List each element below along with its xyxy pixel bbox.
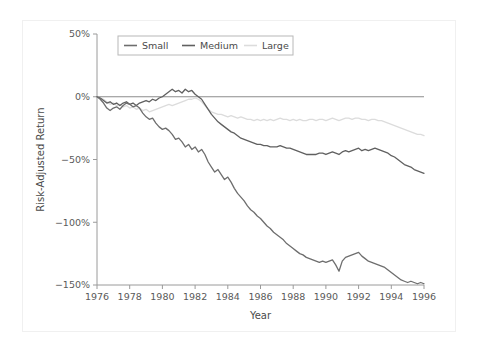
y-tick-label: 50% <box>69 28 90 39</box>
y-axis-title: Risk-Adjusted Return <box>35 107 46 211</box>
x-tick-label: 1992 <box>347 291 371 302</box>
x-tick-label: 1984 <box>216 291 240 302</box>
x-tick-label: 1980 <box>150 291 174 302</box>
x-tick-label: 1978 <box>118 291 142 302</box>
y-tick-label: −150% <box>55 279 90 290</box>
x-tick-label: 1994 <box>379 291 403 302</box>
y-tick-label: −100% <box>55 217 90 228</box>
x-tick-label: 1986 <box>248 291 272 302</box>
series-line-medium <box>97 89 424 173</box>
legend-label-small: Small <box>142 40 168 51</box>
chart-figure: 50%0%−50%−100%−150%197619781980198219841… <box>0 0 478 352</box>
x-tick-label: 1990 <box>314 291 338 302</box>
x-tick-label: 1996 <box>412 291 436 302</box>
x-tick-label: 1976 <box>85 291 109 302</box>
x-axis-title: Year <box>249 310 272 321</box>
y-tick-label: 0% <box>75 91 90 102</box>
series-line-small <box>97 97 424 284</box>
x-tick-label: 1982 <box>183 291 207 302</box>
legend-label-medium: Medium <box>200 40 238 51</box>
y-tick-label: −50% <box>61 154 90 165</box>
legend-label-large: Large <box>262 40 289 51</box>
chart-plot-area: 50%0%−50%−100%−150%197619781980198219841… <box>0 0 478 352</box>
x-tick-label: 1988 <box>281 291 305 302</box>
